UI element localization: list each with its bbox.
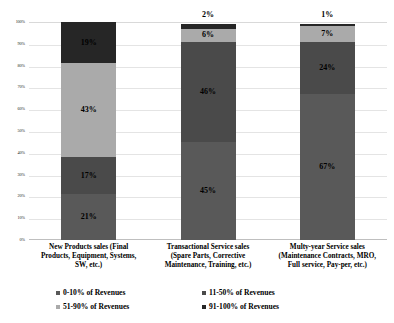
bar-segment[interactable]: 45% bbox=[181, 142, 236, 240]
bar-segment[interactable]: 6% bbox=[181, 29, 236, 42]
bar-segment[interactable]: 43% bbox=[61, 63, 116, 157]
y-axis: 0%10%20%30%40%50%60%70%80%90%100% bbox=[0, 22, 27, 240]
bar-group: 67%24%7% bbox=[300, 22, 355, 240]
legend-swatch-icon bbox=[56, 305, 60, 309]
bar-stack: 45%46%6% bbox=[181, 22, 236, 240]
bar-segment[interactable]: 24% bbox=[300, 42, 355, 94]
bar-segment-value-label: 17% bbox=[81, 172, 97, 180]
y-axis-tick-label: 0% bbox=[20, 238, 25, 242]
chart-legend: 0-10% of Revenues11-50% of Revenues51-90… bbox=[0, 286, 394, 316]
category-label-line: (Spare Parts, Corrective bbox=[150, 252, 265, 261]
legend-label: 51-90% of Revenues bbox=[63, 303, 129, 311]
bar-stack: 21%17%43%19% bbox=[61, 22, 116, 240]
bar-top-value-label: 2% bbox=[181, 11, 236, 19]
y-axis-tick-label: 30% bbox=[18, 172, 25, 176]
bar-segment-value-label: 46% bbox=[200, 88, 216, 96]
bar-segment[interactable]: 17% bbox=[61, 157, 116, 194]
y-axis-tick-label: 50% bbox=[18, 129, 25, 133]
category-label: Transactional Service sales(Spare Parts,… bbox=[150, 243, 265, 269]
legend-swatch-icon bbox=[56, 291, 60, 295]
legend-label: 91-100% of Revenues bbox=[209, 303, 279, 311]
bar-segment-value-label: 43% bbox=[81, 106, 97, 114]
bar-segment[interactable]: 67% bbox=[300, 94, 355, 240]
category-label-line: New Products sales (Final bbox=[31, 243, 146, 252]
bar-segment[interactable]: 21% bbox=[61, 194, 116, 240]
bar-segment-value-label: 19% bbox=[81, 39, 97, 47]
legend-swatch-icon bbox=[202, 305, 206, 309]
bar-group: 21%17%43%19% bbox=[61, 22, 116, 240]
bar-segment-value-label: 67% bbox=[319, 163, 335, 171]
bar-top-value-label: 1% bbox=[300, 11, 355, 19]
bar-segment-value-label: 45% bbox=[200, 187, 216, 195]
category-label-line: SW, etc.) bbox=[31, 261, 146, 270]
category-label: Multy-year Service sales(Maintenance Con… bbox=[270, 243, 385, 269]
bar-stack: 67%24%7% bbox=[300, 22, 355, 240]
bar-group: 45%46%6% bbox=[181, 22, 236, 240]
bar-segment-value-label: 7% bbox=[321, 30, 333, 38]
category-label: New Products sales (FinalProducts, Equip… bbox=[31, 243, 146, 269]
legend-label: 11-50% of Revenues bbox=[209, 289, 275, 297]
y-axis-tick-label: 100% bbox=[16, 20, 25, 24]
category-label-line: (Maintenance Contracts, MRO, bbox=[270, 252, 385, 261]
category-label-line: Transactional Service sales bbox=[150, 243, 265, 252]
bar-segment-value-label: 21% bbox=[81, 213, 97, 221]
stacked-bar-chart: 0%10%20%30%40%50%60%70%80%90%100% 21%17%… bbox=[0, 0, 394, 323]
bar-segment[interactable]: 46% bbox=[181, 42, 236, 142]
y-axis-tick-label: 40% bbox=[18, 151, 25, 155]
category-label-line: Products, Equipment, Systems, bbox=[31, 252, 146, 261]
legend-item[interactable]: 11-50% of Revenues bbox=[202, 286, 348, 300]
category-label-line: Full service, Pay-per, etc.) bbox=[270, 261, 385, 270]
bars-layer: 21%17%43%19%45%46%6%67%24%7%2%1% bbox=[29, 22, 387, 240]
y-axis-tick-label: 90% bbox=[18, 42, 25, 46]
y-axis-tick-label: 20% bbox=[18, 194, 25, 198]
y-axis-tick-label: 10% bbox=[18, 216, 25, 220]
y-axis-tick-label: 80% bbox=[18, 63, 25, 67]
category-label-line: Multy-year Service sales bbox=[270, 243, 385, 252]
legend-item[interactable]: 0-10% of Revenues bbox=[56, 286, 202, 300]
category-label-line: Maintenance, Training, etc.) bbox=[150, 261, 265, 270]
legend-item[interactable]: 91-100% of Revenues bbox=[202, 300, 348, 314]
bar-segment-value-label: 6% bbox=[202, 31, 214, 39]
bar-segment[interactable]: 19% bbox=[61, 22, 116, 63]
bar-segment-value-label: 24% bbox=[319, 64, 335, 72]
bar-segment[interactable]: 7% bbox=[300, 26, 355, 41]
y-axis-tick-label: 60% bbox=[18, 107, 25, 111]
legend-swatch-icon bbox=[202, 291, 206, 295]
legend-item[interactable]: 51-90% of Revenues bbox=[56, 300, 202, 314]
y-axis-tick-label: 70% bbox=[18, 85, 25, 89]
category-axis-labels: New Products sales (FinalProducts, Equip… bbox=[29, 243, 387, 279]
legend-label: 0-10% of Revenues bbox=[63, 289, 125, 297]
